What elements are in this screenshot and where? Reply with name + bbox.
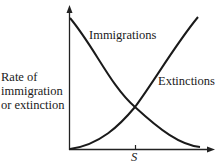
- y-axis-label-line-1: Rate of: [1, 70, 65, 84]
- s-tick-label: S: [131, 150, 137, 165]
- y-axis-label: Rate of immigration or extinction: [1, 70, 65, 112]
- y-axis: [67, 5, 73, 150]
- x-axis: [69, 147, 215, 153]
- immigrations-label: Immigrations: [89, 28, 156, 43]
- extinctions-label: Extinctions: [158, 74, 215, 89]
- y-axis-label-line-2: immigration: [1, 84, 65, 98]
- y-axis-label-line-3: or extinction: [1, 98, 65, 112]
